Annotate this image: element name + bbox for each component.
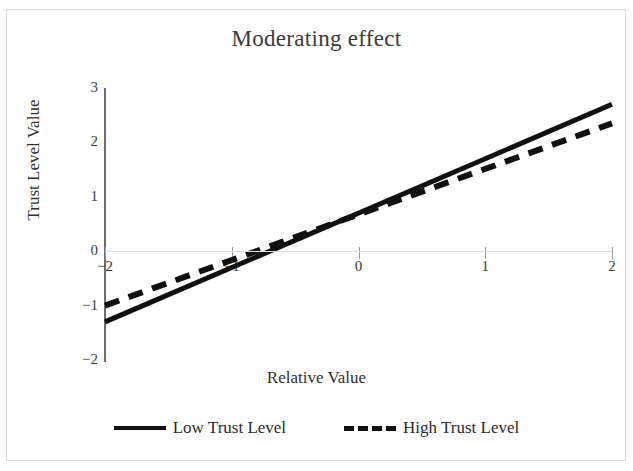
x-axis-title: Relative Value [0,368,633,388]
plot-area [105,88,612,360]
series-line-low-trust-level [105,104,612,322]
chart-legend: Low Trust LevelHigh Trust Level [0,418,633,438]
zero-gridline [105,251,612,252]
y-axis-title: Trust Level Value [24,60,44,260]
legend-item[interactable]: High Trust Level [344,418,519,438]
solid-line-icon [114,421,166,435]
chart-title: Moderating effect [0,26,633,52]
legend-label: High Trust Level [403,418,519,438]
chart-figure: Moderating effect 3210−1−2 Trust Level V… [0,0,633,471]
series-lines [105,88,612,360]
y-tick-label: −1 [64,298,98,313]
dashed-line-icon [344,421,396,435]
y-tick-label: 3 [64,80,98,95]
y-tick-label: 2 [64,134,98,149]
y-tick-label: 0 [64,243,98,258]
y-tick-label: −2 [64,352,98,367]
legend-label: Low Trust Level [173,418,286,438]
y-tick-label: 1 [64,189,98,204]
legend-item[interactable]: Low Trust Level [114,418,286,438]
